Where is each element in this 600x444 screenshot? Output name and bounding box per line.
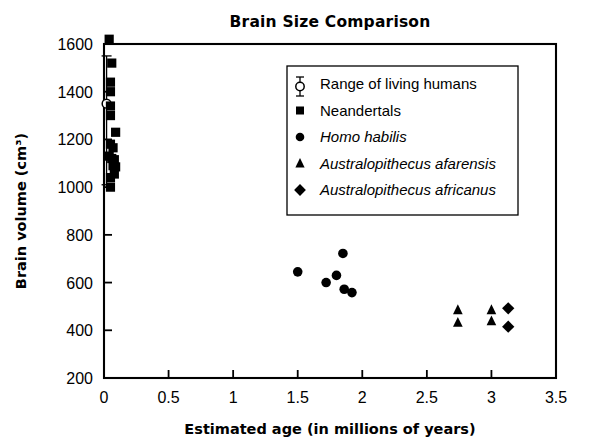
x-tick-label: 2	[358, 389, 367, 406]
y-tick-label: 400	[66, 322, 93, 339]
legend-marker-open-circle	[296, 82, 304, 90]
y-tick-label: 1000	[57, 179, 93, 196]
data-point-circle	[321, 278, 331, 288]
series-homo-habilis	[293, 249, 357, 298]
legend-marker-square	[296, 107, 304, 115]
chart-legend: Range of living humansNeandertalsHomo ha…	[287, 66, 518, 215]
data-point-square	[106, 173, 115, 182]
legend-marker-circle	[296, 133, 305, 142]
data-point-square	[108, 143, 117, 152]
data-point-circle	[293, 267, 303, 277]
data-point-diamond	[502, 321, 514, 333]
legend-label: Homo habilis	[320, 128, 407, 145]
data-point-square	[106, 101, 115, 110]
data-point-triangle	[453, 304, 463, 314]
data-point-square	[107, 58, 116, 67]
legend-label: Range of living humans	[320, 75, 477, 92]
data-point-triangle	[487, 315, 497, 325]
data-point-square	[105, 35, 114, 44]
y-tick-label: 1400	[57, 84, 93, 101]
x-tick-label: 0.5	[157, 389, 179, 406]
x-tick-label: 3.5	[545, 389, 567, 406]
data-point-square	[106, 78, 115, 87]
x-tick-label: 2.5	[416, 389, 438, 406]
x-axis-label: Estimated age (in millions of years)	[184, 421, 475, 437]
data-point-square	[106, 183, 115, 192]
y-tick-label: 600	[66, 275, 93, 292]
data-point-square	[106, 111, 115, 120]
x-tick-label: 0	[100, 389, 109, 406]
x-tick-label: 3	[487, 389, 496, 406]
data-point-triangle	[453, 317, 463, 327]
data-point-square	[111, 128, 120, 137]
x-tick-label: 1	[229, 389, 238, 406]
data-point-triangle	[487, 304, 497, 314]
data-point-diamond	[502, 302, 514, 314]
y-tick-label: 800	[66, 227, 93, 244]
y-tick-label: 1600	[57, 36, 93, 53]
chart-title: Brain Size Comparison	[230, 13, 431, 31]
legend-item[interactable]: Australopithecus afarensis	[295, 155, 496, 172]
legend-label: Australopithecus africanus	[319, 181, 496, 198]
y-tick-label: 1200	[57, 131, 93, 148]
y-tick-label: 200	[66, 370, 93, 387]
legend-label: Australopithecus afarensis	[319, 155, 496, 172]
legend-item[interactable]: Australopithecus africanus	[294, 181, 496, 198]
y-axis-label: Brain volume (cm³)	[13, 133, 29, 289]
data-point-circle	[332, 271, 342, 281]
legend-label: Neandertals	[320, 102, 401, 119]
data-point-circle	[347, 288, 357, 298]
x-tick-label: 1.5	[287, 389, 309, 406]
data-point-square	[106, 87, 115, 96]
series-australopithecus-afarensis	[453, 304, 496, 327]
x-axis-ticks: 00.511.522.533.5	[100, 370, 568, 406]
series-australopithecus-africanus	[502, 302, 514, 333]
data-point-circle	[338, 249, 348, 259]
scatter-plot-canvas: Brain Size Comparison 200400600800100012…	[0, 0, 600, 444]
brain-size-chart: Brain Size Comparison 200400600800100012…	[0, 0, 600, 444]
